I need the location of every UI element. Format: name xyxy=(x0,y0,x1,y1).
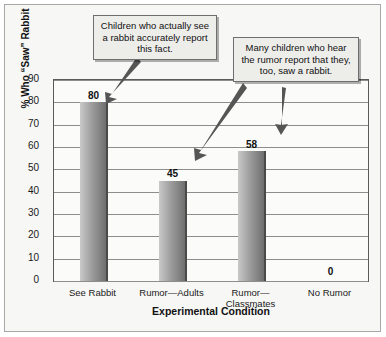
y-tick-40: 40 xyxy=(13,185,39,196)
bar-value-rumor-adults: 45 xyxy=(143,168,203,179)
y-tick-70: 70 xyxy=(13,118,39,129)
y-tick-90: 90 xyxy=(13,73,39,84)
bar-value-see-rabbit: 80 xyxy=(64,90,124,101)
x-axis-label: Experimental Condition xyxy=(53,305,369,317)
y-tick-20: 20 xyxy=(13,229,39,240)
y-tick-30: 30 xyxy=(13,207,39,218)
bar-value-no-rumor: 0 xyxy=(301,266,361,277)
callout-see-rabbit: Children who actually see a rabbit accur… xyxy=(93,15,217,60)
y-tick-0: 0 xyxy=(13,274,39,285)
chart-figure: 80 45 58 0 % Who “Saw” Rabbit 90 80 70 6… xyxy=(4,4,381,332)
bar-rumor-adults[interactable] xyxy=(159,181,187,282)
x-tick-no-rumor: No Rumor xyxy=(290,287,369,298)
x-tick-see-rabbit: See Rabbit xyxy=(53,287,132,298)
bar-slot-see-rabbit: 80 xyxy=(54,80,133,281)
bar-slot-rumor-classmates: 58 xyxy=(212,80,291,281)
bar-slot-no-rumor: 0 xyxy=(291,80,370,281)
y-tick-10: 10 xyxy=(13,252,39,263)
bar-slot-rumor-adults: 45 xyxy=(133,80,212,281)
bar-rumor-classmates[interactable] xyxy=(238,151,266,281)
plot-area: 80 45 58 0 xyxy=(53,79,369,282)
y-tick-80: 80 xyxy=(13,95,39,106)
bar-see-rabbit[interactable] xyxy=(80,102,108,281)
callout-rumor: Many children who hear the rumor report … xyxy=(233,37,359,82)
x-tick-rumor-adults: Rumor—Adults xyxy=(132,287,211,298)
bar-value-rumor-classmates: 58 xyxy=(222,139,282,150)
y-tick-60: 60 xyxy=(13,140,39,151)
y-tick-50: 50 xyxy=(13,162,39,173)
